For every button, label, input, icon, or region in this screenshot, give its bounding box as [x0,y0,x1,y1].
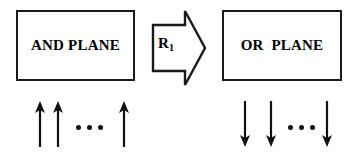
transform-arrow-label: R1 [148,36,184,53]
or-plane-block: OR PLANE [222,10,342,81]
and-plane-block: AND PLANE [16,10,135,81]
arrow-up-icon [117,100,131,148]
arrow-down-icon [264,100,278,148]
input-arrow-up-2 [51,100,65,148]
arrow-down-icon [320,100,334,148]
transform-block-arrow: R1 [148,6,210,90]
output-ellipsis [288,122,315,132]
input-arrow-up-1 [33,100,47,148]
transform-arrow-label-subscript: 1 [169,42,174,53]
ellipsis-dot [288,125,293,130]
pla-block-diagram: AND PLANE R1 OR PLANE [0,0,358,153]
and-plane-label: AND PLANE [31,38,120,53]
input-arrow-up-n [117,100,131,148]
ellipsis-dot [87,125,92,130]
ellipsis-dot [310,125,315,130]
ellipsis-dot [98,125,103,130]
arrow-down-icon [238,100,252,148]
ellipsis-dot [76,125,81,130]
arrow-up-icon [33,100,47,148]
arrow-up-icon [51,100,65,148]
or-plane-label: OR PLANE [241,38,324,53]
output-arrow-down-1 [238,100,252,148]
transform-arrow-label-base: R [158,35,169,51]
output-arrow-down-2 [264,100,278,148]
input-ellipsis [76,122,103,132]
output-arrow-down-n [320,100,334,148]
ellipsis-dot [299,125,304,130]
input-signal-arrows [24,100,134,150]
output-signal-arrows [236,100,342,150]
